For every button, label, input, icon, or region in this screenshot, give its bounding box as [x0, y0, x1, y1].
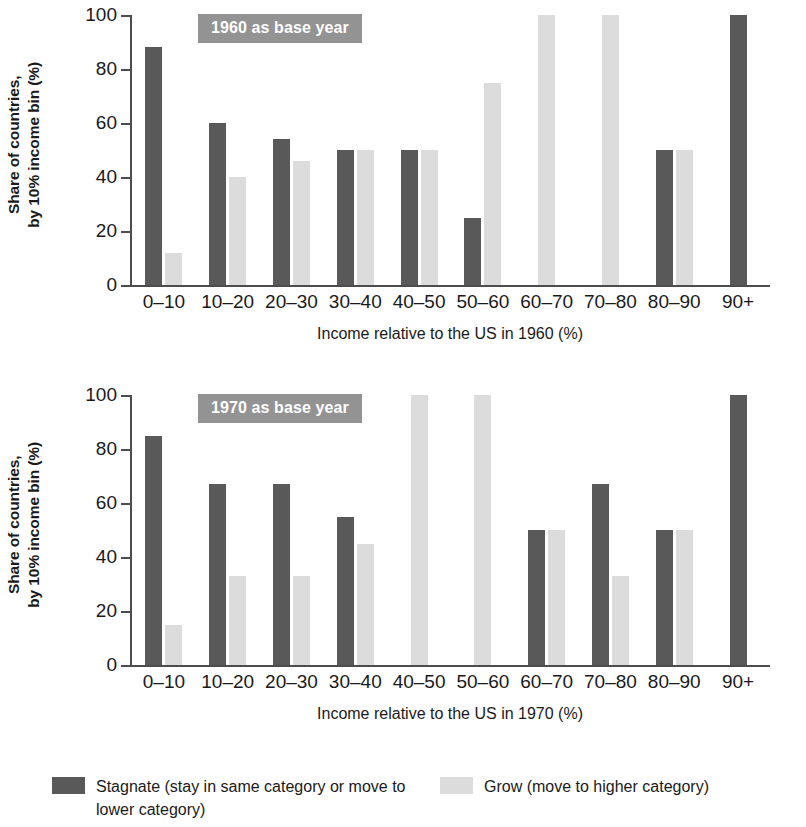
- x-tick-label: 50–60: [456, 671, 509, 693]
- plot-area-1970: 020406080100 0–1010–2020–3030–4040–5050–…: [130, 395, 770, 665]
- x-axis-line-1: [130, 285, 770, 287]
- x-tick-label: 0–10: [143, 291, 185, 313]
- y-tick-mark: [121, 69, 130, 71]
- y-tick-mark: [121, 449, 130, 451]
- x-tick-label: 60–70: [520, 291, 573, 313]
- bar: [548, 530, 565, 665]
- bar-group: 20–30: [260, 15, 324, 285]
- bar: [229, 576, 246, 665]
- bar-group: 30–40: [323, 15, 387, 285]
- x-tick-label: 80–90: [648, 291, 701, 313]
- bar: [357, 544, 374, 666]
- bar: [145, 436, 162, 666]
- bar-group: 60–70: [515, 395, 579, 665]
- legend-label-stagnate: Stagnate (stay in same category or move …: [96, 775, 426, 821]
- x-tick-label: 40–50: [393, 671, 446, 693]
- bar-group: 80–90: [642, 15, 706, 285]
- bar-groups-1970: 0–1010–2020–3030–4040–5050–6060–7070–808…: [132, 395, 770, 665]
- y-tick-label: 40: [96, 166, 117, 188]
- plot-area-1960: 020406080100 0–1010–2020–3030–4040–5050–…: [130, 15, 770, 285]
- y-tick-mark: [121, 665, 130, 667]
- bar: [464, 218, 481, 286]
- x-tick-label: 0–10: [143, 671, 185, 693]
- bar-group: 10–20: [196, 15, 260, 285]
- x-tick-label: 10–20: [201, 291, 254, 313]
- y-tick-label: 20: [96, 600, 117, 622]
- bar: [337, 150, 354, 285]
- bar: [411, 395, 428, 665]
- y-tick-label: 0: [106, 654, 117, 676]
- x-tick-label: 20–30: [265, 291, 318, 313]
- x-tick-label: 70–80: [584, 291, 637, 313]
- x-tick-label: 30–40: [329, 671, 382, 693]
- bar: [730, 15, 747, 285]
- bar: [273, 484, 290, 665]
- y-tick-mark: [121, 503, 130, 505]
- x-tick-label: 10–20: [201, 671, 254, 693]
- x-axis-line-2: [130, 665, 770, 667]
- legend-item-stagnate: Stagnate (stay in same category or move …: [52, 775, 432, 821]
- y-tick-label: 80: [96, 438, 117, 460]
- x-tick-label: 40–50: [393, 291, 446, 313]
- bar: [676, 530, 693, 665]
- y-tick-label: 60: [96, 112, 117, 134]
- bar-group: 40–50: [387, 15, 451, 285]
- y-tick-label: 20: [96, 220, 117, 242]
- y-tick-mark: [121, 557, 130, 559]
- y-tick-mark: [121, 231, 130, 233]
- bar: [165, 253, 182, 285]
- bar-group: 10–20: [196, 395, 260, 665]
- bar: [229, 177, 246, 285]
- bar-group: 50–60: [451, 395, 515, 665]
- chart-panel-1960: Share of countries, by 10% income bin (%…: [0, 0, 806, 380]
- x-tick-label: 20–30: [265, 671, 318, 693]
- bar-group: 40–50: [387, 395, 451, 665]
- chart-panel-1970: Share of countries, by 10% income bin (%…: [0, 380, 806, 760]
- bar-group: 50–60: [451, 15, 515, 285]
- legend-item-grow: Grow (move to higher category): [440, 775, 800, 798]
- legend-swatch-stagnate-icon: [52, 777, 85, 794]
- bar-group: 70–80: [579, 15, 643, 285]
- x-tick-label: 30–40: [329, 291, 382, 313]
- y-axis-title-line2: by 10% income bin (%): [24, 62, 44, 228]
- y-tick-label: 80: [96, 58, 117, 80]
- bar: [145, 47, 162, 285]
- bar: [293, 161, 310, 285]
- x-tick-label: 90+: [722, 291, 754, 313]
- bar: [165, 625, 182, 666]
- bar: [612, 576, 629, 665]
- bar: [528, 530, 545, 665]
- y-tick-mark: [121, 123, 130, 125]
- bar: [293, 576, 310, 665]
- y-axis-title-line2: by 10% income bin (%): [24, 442, 44, 608]
- y-axis-title-line1: Share of countries,: [4, 62, 24, 228]
- bar-group: 90+: [706, 395, 770, 665]
- bar-group: 0–10: [132, 395, 196, 665]
- bar: [273, 139, 290, 285]
- bar-group: 60–70: [515, 15, 579, 285]
- chart-legend: Stagnate (stay in same category or move …: [0, 770, 806, 827]
- bar-group: 20–30: [260, 395, 324, 665]
- x-tick-label: 60–70: [520, 671, 573, 693]
- bar: [538, 15, 555, 285]
- bar: [602, 15, 619, 285]
- bar-group: 30–40: [323, 395, 387, 665]
- bar-group: 70–80: [579, 395, 643, 665]
- x-tick-label: 50–60: [456, 291, 509, 313]
- bar-group: 0–10: [132, 15, 196, 285]
- bar: [592, 484, 609, 665]
- x-tick-label: 80–90: [648, 671, 701, 693]
- bar: [357, 150, 374, 285]
- x-tick-label: 90+: [722, 671, 754, 693]
- bar: [676, 150, 693, 285]
- y-tick-mark: [121, 611, 130, 613]
- bar-groups-1960: 0–1010–2020–3030–4040–5050–6060–7070–808…: [132, 15, 770, 285]
- legend-swatch-grow-icon: [440, 777, 473, 794]
- bar: [474, 395, 491, 665]
- legend-label-grow: Grow (move to higher category): [484, 775, 709, 798]
- bar: [656, 530, 673, 665]
- y-tick-mark: [121, 285, 130, 287]
- bar: [209, 484, 226, 665]
- y-tick-mark: [121, 15, 130, 17]
- bar: [209, 123, 226, 285]
